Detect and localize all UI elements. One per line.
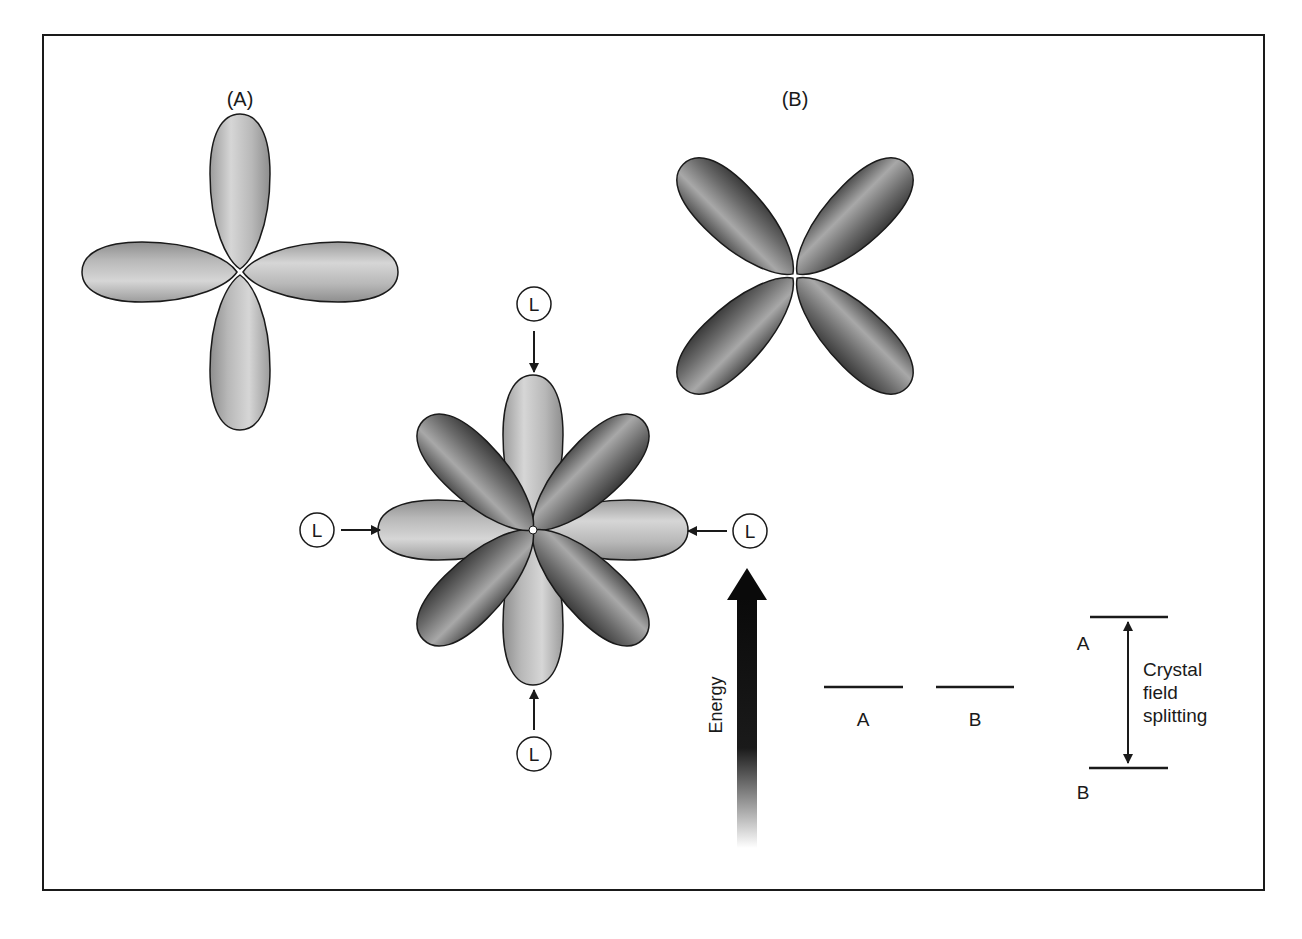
svg-text:L: L [745, 521, 756, 542]
ligand-left: L [300, 513, 380, 547]
svg-text:L: L [312, 520, 323, 541]
level-b-label: B [969, 709, 982, 730]
ligand-top: L [517, 287, 551, 372]
split-upper-label: A [1077, 633, 1090, 654]
combined-orbital [378, 375, 688, 685]
split-levels: A B Crystal field splitting [1077, 617, 1208, 803]
panel-label-a: (A) [227, 88, 254, 110]
ligand-bottom: L [517, 690, 551, 771]
svg-text:L: L [529, 294, 540, 315]
degenerate-levels: A B [824, 687, 1014, 730]
svg-text:L: L [529, 744, 540, 765]
crystal-field-diagram: (A) (B) L L L [0, 0, 1302, 939]
split-lower-label: B [1077, 782, 1090, 803]
energy-arrow: Energy [706, 568, 767, 848]
splitting-label-line-2: field [1143, 682, 1178, 703]
ligand-right: L [688, 514, 767, 548]
splitting-label-line-1: Crystal [1143, 659, 1202, 680]
energy-label: Energy [706, 676, 726, 733]
orbital-b [662, 143, 928, 409]
panel-label-b: (B) [782, 88, 809, 110]
level-a-label: A [857, 709, 870, 730]
orbital-a [82, 114, 398, 430]
splitting-label-line-3: splitting [1143, 705, 1207, 726]
